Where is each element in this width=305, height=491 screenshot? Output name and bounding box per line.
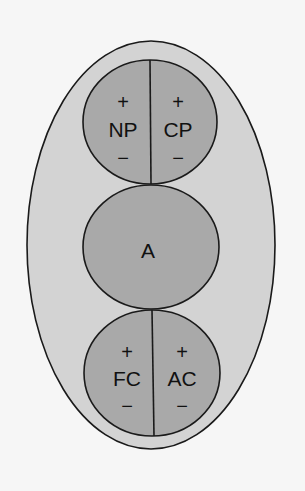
np-label: NP (108, 118, 137, 141)
np-plus-sign: + (117, 91, 129, 113)
bottom-circle: + FC − + AC − (84, 310, 220, 436)
top-circle: + NP − + CP − (83, 60, 217, 184)
top-circle-divider (150, 60, 151, 184)
cp-plus-sign: + (172, 91, 184, 113)
fc-label: FC (113, 367, 141, 390)
cp-label: CP (163, 118, 192, 141)
ac-minus-sign: − (176, 395, 188, 417)
ego-state-diagram: + NP − + CP − A + FC − + AC − (0, 0, 305, 491)
ac-label: AC (167, 367, 196, 390)
middle-circle: A (83, 185, 219, 309)
a-label: A (141, 239, 155, 262)
ac-plus-sign: + (176, 341, 188, 363)
fc-minus-sign: − (121, 395, 133, 417)
np-minus-sign: − (117, 147, 129, 169)
fc-plus-sign: + (121, 341, 133, 363)
cp-minus-sign: − (172, 147, 184, 169)
